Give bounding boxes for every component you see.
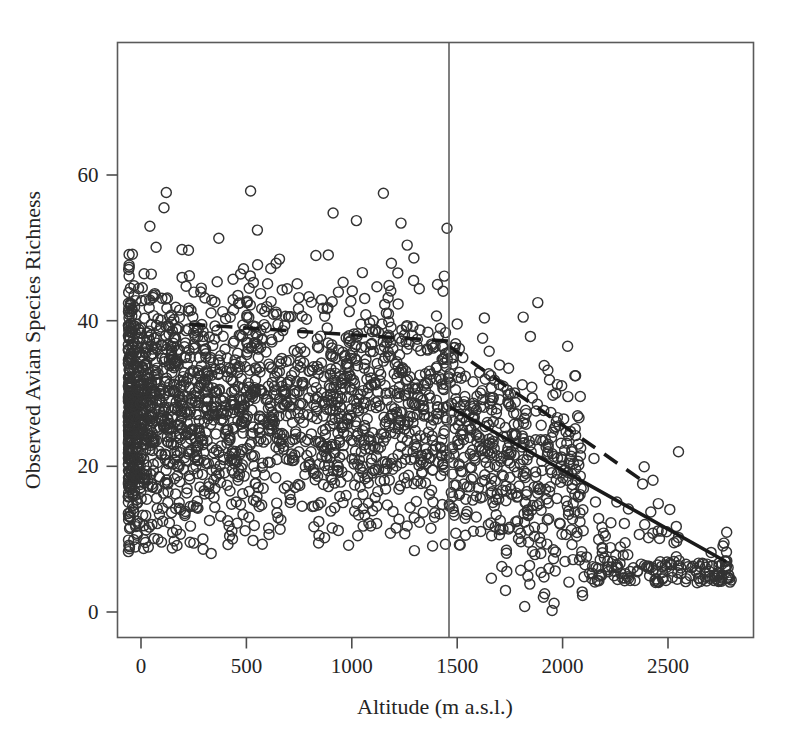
scatter-plot-figure: 05001000150020002500 0204060 Altitude (m… (0, 0, 791, 744)
x-tick-label: 0 (136, 654, 147, 678)
x-tick-label: 500 (231, 654, 263, 678)
y-tick-label: 20 (78, 454, 99, 478)
x-tick-label: 1000 (331, 654, 373, 678)
x-tick-label: 1500 (436, 654, 478, 678)
y-tick-label: 60 (78, 163, 99, 187)
y-axis-title: Observed Avian Species Richness (20, 191, 45, 489)
x-tick-label: 2500 (647, 654, 689, 678)
y-tick-label: 0 (88, 600, 99, 624)
x-tick-label: 2000 (542, 654, 584, 678)
plot-canvas: 05001000150020002500 0204060 Altitude (m… (0, 0, 791, 744)
y-tick-label: 40 (78, 309, 99, 333)
x-axis-title: Altitude (m a.s.l.) (357, 694, 513, 719)
